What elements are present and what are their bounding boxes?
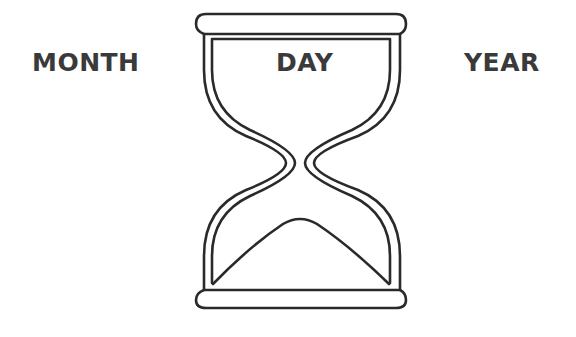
hourglass-bottom-rim: [196, 290, 406, 308]
hourglass-icon: [0, 0, 576, 337]
hourglass-outer-body: [204, 34, 400, 290]
hourglass-top-rim: [196, 14, 406, 34]
hourglass-sand-pile: [213, 219, 389, 284]
hourglass-inner-body: [212, 39, 390, 283]
